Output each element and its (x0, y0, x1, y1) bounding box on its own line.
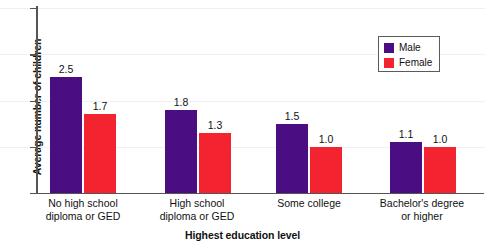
x-category-label-0: No high school diploma or GED (18, 197, 148, 222)
legend-swatch-female-icon (384, 58, 394, 68)
y-tick-3 (30, 54, 37, 55)
y-tick-1 (30, 147, 37, 148)
legend-label-male: Male (399, 43, 421, 53)
bar-female-2 (310, 147, 342, 193)
bar-value-male-2: 1.5 (275, 110, 309, 122)
bar-male-1 (165, 110, 197, 193)
y-tick-2 (30, 101, 37, 102)
bar-female-0 (84, 114, 116, 193)
x-category-label-0-line2: diploma or GED (18, 210, 148, 223)
legend-item-male: Male (384, 40, 439, 55)
bar-female-1 (199, 133, 231, 193)
bar-chart: Average number of children 4 3 2 1 0 2.5… (0, 0, 485, 250)
x-category-label-2: Some college (244, 197, 374, 210)
bar-value-female-2: 1.0 (309, 133, 343, 145)
x-category-label-3: Bachelor's degree or higher (357, 197, 485, 222)
legend-item-female: Female (384, 55, 439, 70)
y-tick-0 (30, 193, 37, 194)
bar-value-female-0: 1.7 (83, 100, 117, 112)
x-category-label-0-line1: No high school (18, 197, 148, 210)
bar-male-0 (50, 77, 82, 193)
bar-value-female-1: 1.3 (198, 119, 232, 131)
x-axis-title: Highest education level (0, 229, 485, 241)
legend-swatch-male-icon (384, 43, 394, 53)
bar-group-1: 1.8 1.3 (165, 8, 231, 193)
bar-male-3 (390, 142, 422, 193)
legend-label-female: Female (399, 58, 432, 68)
x-category-label-1: High school diploma or GED (132, 197, 262, 222)
bar-value-female-3: 1.0 (423, 133, 457, 145)
x-category-label-3-line1: Bachelor's degree (357, 197, 485, 210)
bar-male-2 (276, 124, 308, 193)
x-category-label-1-line1: High school (132, 197, 262, 210)
bar-group-0: 2.5 1.7 (50, 8, 116, 193)
x-category-label-3-line2: or higher (357, 210, 485, 223)
bar-female-3 (424, 147, 456, 193)
bar-value-male-3: 1.1 (389, 128, 423, 140)
bar-value-male-0: 2.5 (49, 63, 83, 75)
x-category-label-1-line2: diploma or GED (132, 210, 262, 223)
bar-group-2: 1.5 1.0 (276, 8, 342, 193)
bar-value-male-1: 1.8 (164, 96, 198, 108)
legend: Male Female (378, 36, 440, 72)
y-tick-4 (30, 8, 37, 9)
x-category-label-2-line1: Some college (244, 197, 374, 210)
